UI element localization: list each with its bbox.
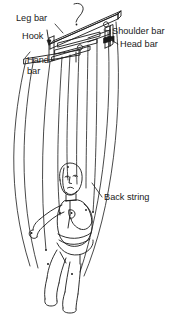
label-hook: Hook <box>22 31 44 41</box>
puppet-right-arm <box>69 204 93 230</box>
puppet-left-leg <box>45 250 66 306</box>
label-back-string: Back string <box>104 192 149 202</box>
marionette-diagram: Leg bar Hook Hand bar Shoulder bar Head … <box>0 0 184 314</box>
puppet-right-leg <box>63 262 81 313</box>
label-leg-bar: Leg bar <box>16 13 47 23</box>
puppet-hips <box>57 240 93 264</box>
diagram-canvas: Leg bar Hook Hand bar Shoulder bar Head … <box>0 0 184 314</box>
hook-icon <box>74 3 83 25</box>
label-hand-bar-line1: Hand <box>27 55 49 65</box>
label-head-bar: Head bar <box>120 39 158 49</box>
puppet-torso <box>57 200 92 246</box>
label-shoulder-bar: Shoulder bar <box>112 26 165 36</box>
puppet-head <box>60 163 83 195</box>
label-hand-bar-line2: bar <box>27 66 40 76</box>
puppet-figure <box>29 163 94 313</box>
